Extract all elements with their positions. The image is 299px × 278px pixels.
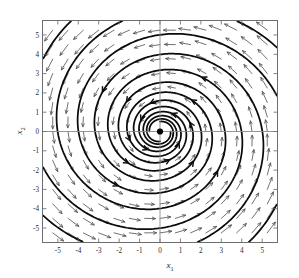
- y-tick-label: 1: [35, 109, 39, 117]
- equilibrium-point-marker: [157, 128, 163, 134]
- phase-portrait-canvas: -5-4-3-2-1012345-5-4-3-2-1012345 x1 x2: [0, 0, 299, 278]
- y-axis-title-subscript: 2: [19, 127, 26, 130]
- x-axis-title-subscript: 1: [170, 265, 173, 272]
- y-tick-label: 0: [35, 128, 39, 136]
- phase-portrait-figure: -5-4-3-2-1012345-5-4-3-2-1012345 x1 x2: [0, 0, 299, 278]
- y-tick-label: -2: [33, 167, 39, 175]
- y-tick-label: 3: [35, 70, 39, 78]
- y-tick-label: -4: [33, 205, 39, 213]
- y-tick-label: -1: [33, 147, 39, 155]
- y-tick-label: -5: [33, 225, 39, 233]
- x-tick-label: -1: [137, 247, 143, 255]
- x-tick-label: -5: [55, 247, 61, 255]
- x-tick-label: -4: [75, 247, 81, 255]
- x-tick-label: 4: [240, 247, 244, 255]
- x-tick-label: 5: [260, 247, 264, 255]
- x-tick-label: 3: [220, 247, 224, 255]
- y-tick-label: 5: [35, 32, 39, 40]
- y-tick-label: 2: [35, 89, 39, 97]
- y-tick-label: 4: [35, 51, 39, 59]
- x-tick-label: -2: [116, 247, 122, 255]
- x-tick-label: 1: [179, 247, 183, 255]
- x-tick-label: 2: [199, 247, 203, 255]
- y-tick-label: -3: [33, 186, 39, 194]
- x-tick-label: -3: [96, 247, 102, 255]
- x-tick-label: 0: [158, 247, 162, 255]
